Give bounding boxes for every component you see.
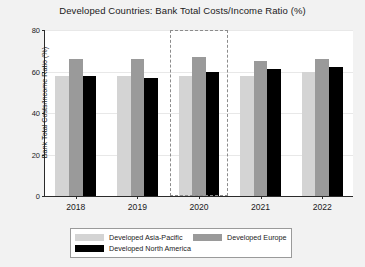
bar — [83, 76, 97, 196]
legend-entry-asia-pacific[interactable]: Developed Asia-Pacific — [75, 233, 193, 242]
legend-entry-europe[interactable]: Developed Europe — [193, 233, 287, 242]
y-tick-label: 60 — [14, 67, 45, 76]
legend-label-asia-pacific: Developed Asia-Pacific — [109, 233, 183, 242]
plot-area: Bank Total Costs/Income Ratio (%) 020406… — [44, 30, 353, 197]
y-tick-label: 40 — [14, 109, 45, 118]
bar — [254, 61, 268, 196]
x-tick-label: 2021 — [231, 202, 291, 212]
x-tick-label: 2019 — [107, 202, 167, 212]
bar — [55, 76, 69, 196]
bar — [267, 69, 281, 196]
legend-entry-north-america[interactable]: Developed North America — [75, 244, 193, 253]
legend-swatch-asia-pacific — [75, 234, 104, 241]
gridline — [45, 30, 353, 31]
y-tick-label: 20 — [14, 150, 45, 159]
legend-swatch-north-america — [75, 245, 104, 252]
x-tick-label: 2022 — [292, 202, 352, 212]
y-tick-label: 80 — [14, 26, 45, 35]
legend-swatch-europe — [193, 234, 222, 241]
legend-row: Developed North America — [75, 243, 287, 254]
chart-figure: Developed Countries: Bank Total Costs/In… — [0, 0, 365, 267]
y-tick-mark — [42, 72, 45, 73]
x-tick-mark — [199, 196, 200, 199]
y-tick-mark — [42, 196, 45, 197]
bar — [206, 72, 220, 197]
chart-legend: Developed Asia-Pacific Developed Europe … — [70, 228, 292, 258]
y-tick-mark — [42, 113, 45, 114]
y-tick-mark — [42, 30, 45, 31]
bar — [192, 57, 206, 196]
x-tick-mark — [322, 196, 323, 199]
y-tick-label: 0 — [14, 192, 45, 201]
legend-label-europe: Developed Europe — [227, 233, 287, 242]
bar — [144, 78, 158, 196]
bar — [302, 72, 316, 197]
y-tick-mark — [42, 155, 45, 156]
x-tick-mark — [137, 196, 138, 199]
bar — [69, 59, 83, 196]
bar — [131, 59, 145, 196]
legend-label-north-america: Developed North America — [109, 244, 191, 253]
legend-row: Developed Asia-Pacific Developed Europe — [75, 232, 287, 243]
bar — [179, 76, 193, 196]
bar — [240, 76, 254, 196]
x-tick-mark — [261, 196, 262, 199]
bar — [117, 76, 131, 196]
chart-title: Developed Countries: Bank Total Costs/In… — [0, 5, 365, 16]
x-tick-label: 2020 — [169, 202, 229, 212]
bar — [329, 67, 343, 196]
x-tick-mark — [76, 196, 77, 199]
bar — [315, 59, 329, 196]
x-tick-label: 2018 — [46, 202, 106, 212]
